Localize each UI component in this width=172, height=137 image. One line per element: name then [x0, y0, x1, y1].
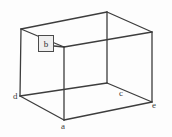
- edge-vertical-left: [20, 29, 21, 96]
- vertex-label-c: c: [119, 89, 123, 98]
- vertex-label-d: d: [13, 92, 18, 101]
- callout-box-b: b: [38, 35, 54, 52]
- edge-right-top-to-front-top: [64, 32, 152, 47]
- callout-label-b: b: [39, 36, 53, 51]
- edge-right-bottom-to-back-bottom: [107, 83, 152, 102]
- edge-left-top-to-back-top: [21, 12, 107, 29]
- vertex-label-e: e: [152, 101, 156, 110]
- edge-back-top-to-right-top: [107, 12, 152, 32]
- edge-front-bottom-to-right-bottom: [64, 102, 152, 120]
- vertex-label-a: a: [61, 122, 65, 131]
- box-wireframe-svg: [0, 0, 172, 137]
- edge-left-bottom-to-front-bottom: [20, 96, 64, 120]
- figure-canvas: b a c d e: [0, 0, 172, 137]
